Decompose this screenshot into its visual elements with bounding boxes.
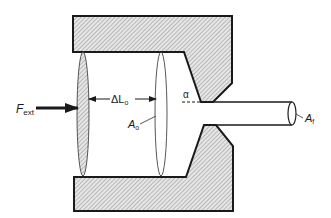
final-area-label: Af [304, 112, 314, 125]
diagram-canvas: Fext ΔLo Ao Af α [0, 0, 331, 218]
bottom-die [74, 125, 233, 211]
rod-end-cross-section [288, 102, 296, 125]
billet-cross-section [155, 52, 167, 176]
initial-area-label: Ao [127, 118, 139, 131]
ram-face [77, 52, 89, 176]
extrusion-diagram: Fext ΔLo Ao Af α [0, 0, 331, 218]
final-area-leader [296, 114, 303, 118]
initial-area-leader [140, 116, 156, 124]
force-label: Fext [16, 102, 35, 117]
delta-length-label: ΔLo [111, 93, 128, 106]
top-die [73, 16, 232, 102]
die-angle-label: α [183, 89, 189, 100]
